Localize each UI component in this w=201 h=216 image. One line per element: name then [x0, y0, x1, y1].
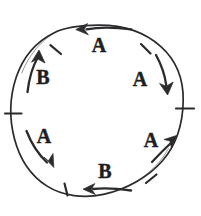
circle-arrow-diagram: A A B A A B	[0, 0, 201, 216]
arrow-bottom-label: B	[98, 160, 111, 182]
arrow-upper-left-label: B	[36, 66, 49, 88]
arrow-top-label: A	[92, 34, 107, 56]
arrow-upper-right-label: A	[133, 68, 148, 90]
tick-lower-right	[146, 175, 157, 184]
arrow-upper-right	[156, 55, 173, 95]
diagram-canvas: A A B A A B	[0, 0, 201, 216]
arrow-lower-right-label: A	[144, 129, 159, 151]
tick-upper-left	[50, 45, 61, 54]
arrow-lower-left-label: A	[37, 125, 52, 147]
tick-upper-right	[141, 44, 151, 54]
